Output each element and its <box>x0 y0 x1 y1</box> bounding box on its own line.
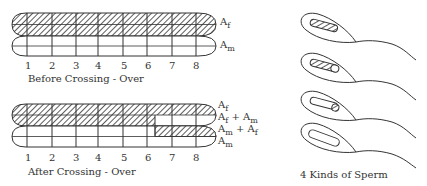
crossing-over-diagram <box>0 0 427 186</box>
sperm-3 <box>301 91 416 138</box>
label-am-before: Am <box>220 40 235 53</box>
sperm-4 <box>301 123 416 168</box>
after-chromosome-top <box>12 104 216 126</box>
after-caption: After Crossing - Over <box>28 167 136 177</box>
label-af-before: Af <box>220 17 230 30</box>
sperm-caption: 4 Kinds of Sperm <box>300 170 388 180</box>
before-caption: Before Crossing - Over <box>28 74 144 84</box>
label-am-after: Am <box>218 136 233 149</box>
sperm-2 <box>301 53 416 100</box>
before-chromosome-am <box>12 36 216 56</box>
sperm-1 <box>301 13 416 60</box>
before-chromosome-af <box>12 13 216 36</box>
